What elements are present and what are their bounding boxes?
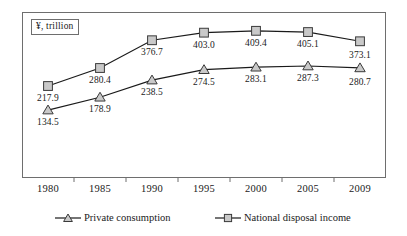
data-point-marker bbox=[252, 26, 261, 35]
data-value-label: 376.7 bbox=[141, 47, 163, 57]
legend-item-private-consumption[interactable]: Private consumption bbox=[55, 212, 171, 224]
x-axis-ticks bbox=[74, 178, 334, 182]
data-value-label: 283.1 bbox=[245, 74, 267, 84]
data-value-label: 238.5 bbox=[141, 87, 163, 97]
data-point-marker bbox=[356, 37, 365, 46]
unit-label-box: ¥, trillion bbox=[31, 19, 79, 35]
chart-legend: Private consumption National disposal in… bbox=[0, 210, 407, 230]
data-point-marker bbox=[303, 61, 313, 70]
data-point-marker bbox=[200, 28, 209, 37]
data-value-label: 287.3 bbox=[297, 73, 319, 83]
series-layer bbox=[0, 0, 407, 236]
triangle-marker-icon bbox=[55, 212, 81, 224]
data-value-label: 403.0 bbox=[193, 40, 215, 50]
legend-label-private-consumption: Private consumption bbox=[84, 212, 171, 224]
data-value-label: 178.9 bbox=[89, 104, 111, 114]
data-value-label: 409.4 bbox=[245, 38, 267, 48]
data-point-marker bbox=[304, 28, 313, 37]
data-value-label: 280.4 bbox=[89, 75, 111, 85]
legend-item-national-disposal-income[interactable]: National disposal income bbox=[215, 212, 351, 224]
data-value-label: 405.1 bbox=[297, 39, 319, 49]
data-point-marker bbox=[148, 36, 157, 45]
data-value-label: 280.7 bbox=[349, 77, 371, 87]
data-point-marker bbox=[44, 82, 53, 91]
data-value-label: 274.5 bbox=[193, 77, 215, 87]
data-point-marker bbox=[96, 64, 105, 73]
legend-label-national-disposal-income: National disposal income bbox=[244, 212, 351, 224]
data-value-label: 373.1 bbox=[349, 50, 371, 60]
square-marker-icon bbox=[215, 212, 241, 224]
data-value-label: 217.9 bbox=[37, 93, 59, 103]
line-chart: ¥, trillion 134.5178.9238.5274.5283.1287… bbox=[0, 0, 407, 236]
data-value-label: 134.5 bbox=[37, 117, 59, 127]
